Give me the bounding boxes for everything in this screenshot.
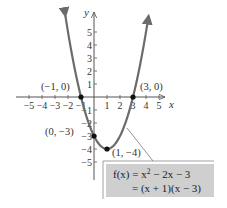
label-0-neg3: (0, −3) [45,126,74,138]
y-tick-label: −4 [81,144,92,155]
axes: −5−4−3−2−112345 −5−4−3−2−112345 x y [16,6,174,180]
y-tick-label: 5 [87,27,92,38]
y-tick-label: 1 [87,79,92,90]
x-tick-label: −2 [63,100,74,111]
x-tick-label: −3 [50,100,61,111]
parabola-curve [65,16,148,149]
x-axis-label: x [168,98,174,110]
y-tick-label: 3 [87,53,92,64]
label-3-0: (3, 0) [140,81,163,93]
x-tick-label: 4 [144,100,149,111]
label-neg1-0: (−1, 0) [41,81,70,93]
point-x-intercept-left [78,94,83,99]
function-definition: f(x) = x2 − 2x − 3 [113,167,191,181]
point-vertex [104,146,109,151]
y-tick-label: −3 [81,131,92,142]
x-tick-label: 5 [157,100,162,111]
y-tick-label: 4 [87,40,92,51]
y-axis-label: y [83,6,89,18]
parabola-chart: −5−4−3−2−112345 −5−4−3−2−112345 x y (−1,… [0,0,227,208]
y-tick-label: −5 [81,157,92,168]
x-tick-label: 2 [118,100,123,111]
x-tick-label: −5 [24,100,35,111]
function-factored: = (x + 1)(x − 3) [132,182,201,195]
point-y-intercept [91,133,96,138]
label-1-neg4: (1, −4) [112,147,141,159]
point-x-intercept-right [130,94,135,99]
y-tick-label: 2 [87,66,92,77]
x-tick-label: −4 [37,100,48,111]
x-tick-label: 1 [105,100,110,111]
